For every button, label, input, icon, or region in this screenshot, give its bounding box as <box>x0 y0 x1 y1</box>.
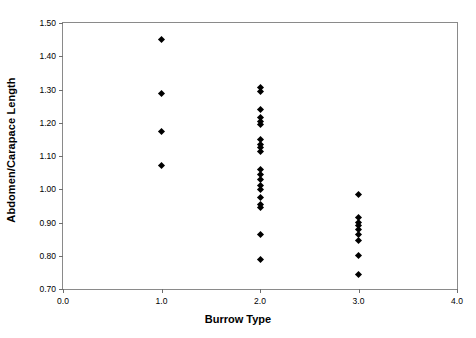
x-axis-tick <box>457 289 458 293</box>
x-axis-title: Burrow Type <box>0 313 476 325</box>
y-axis-tick-label: 1.10 <box>39 151 56 161</box>
x-axis-tick <box>359 289 360 293</box>
y-axis-tick <box>59 156 63 157</box>
data-points-layer <box>63 23 457 289</box>
data-point <box>355 252 362 259</box>
x-axis-tick-label: 2.0 <box>254 296 266 306</box>
y-axis-tick <box>59 23 63 24</box>
y-axis-title: Abdomen/Carapace Length <box>0 0 22 300</box>
data-point <box>256 231 263 238</box>
y-axis-tick <box>59 90 63 91</box>
x-axis-tick <box>63 289 64 293</box>
plot-area: 0.700.800.901.001.101.201.301.401.500.01… <box>62 22 458 290</box>
data-point <box>355 270 362 277</box>
y-axis-tick-label: 0.90 <box>39 218 56 228</box>
data-point <box>158 128 165 135</box>
data-point <box>256 204 263 211</box>
y-axis-tick-label: 0.80 <box>39 251 56 261</box>
y-axis-tick-label: 1.30 <box>39 85 56 95</box>
x-axis-tick <box>162 289 163 293</box>
data-point <box>158 162 165 169</box>
x-axis-tick-label: 4.0 <box>451 296 463 306</box>
x-axis-tick <box>260 289 261 293</box>
y-axis-tick-label: 1.00 <box>39 184 56 194</box>
y-axis-tick-label: 1.40 <box>39 51 56 61</box>
scatter-plot-figure: Abdomen/Carapace Length 0.700.800.901.00… <box>0 0 476 338</box>
x-axis-tick-label: 0.0 <box>57 296 69 306</box>
data-point <box>158 36 165 43</box>
y-axis-title-text: Abdomen/Carapace Length <box>5 77 17 222</box>
data-point <box>256 106 263 113</box>
y-axis-tick <box>59 223 63 224</box>
y-axis-tick <box>59 56 63 57</box>
data-point <box>355 237 362 244</box>
x-axis-tick-label: 1.0 <box>156 296 168 306</box>
y-axis-tick <box>59 123 63 124</box>
data-point <box>355 191 362 198</box>
y-axis-tick <box>59 189 63 190</box>
data-point <box>256 256 263 263</box>
data-point <box>158 90 165 97</box>
x-axis-tick-label: 3.0 <box>353 296 365 306</box>
y-axis-tick-label: 1.20 <box>39 118 56 128</box>
y-axis-tick-label: 1.50 <box>39 18 56 28</box>
y-axis-tick <box>59 256 63 257</box>
y-axis-tick-label: 0.70 <box>39 284 56 294</box>
